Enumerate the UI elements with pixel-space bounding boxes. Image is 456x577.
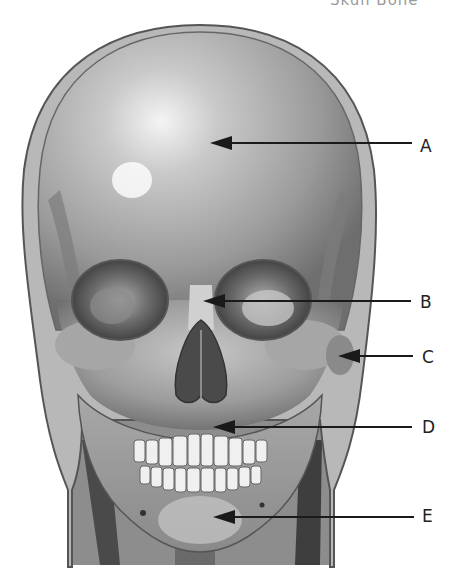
label-d: D bbox=[422, 419, 435, 436]
teeth bbox=[134, 434, 267, 492]
label-e: E bbox=[422, 508, 433, 525]
label-c: C bbox=[422, 349, 434, 366]
label-b: B bbox=[420, 294, 432, 311]
skull-diagram: Skull Bone bbox=[0, 0, 456, 577]
skull-illustration bbox=[0, 0, 456, 577]
label-a: A bbox=[420, 138, 432, 155]
